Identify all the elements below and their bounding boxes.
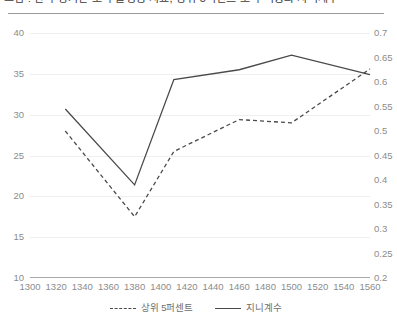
legend-item[interactable]: 상위 5퍼센트	[110, 302, 194, 314]
legend-item-label: 상위 5퍼센트	[141, 302, 194, 314]
chart-legend: 상위 5퍼센트지니계수	[0, 300, 392, 316]
y-axis-right-tick: 0.6	[374, 77, 387, 87]
plot-area	[30, 33, 370, 278]
y-axis-left-tick: 25	[13, 151, 24, 161]
y-axis-left-tick: 20	[13, 191, 24, 201]
header-divider	[8, 13, 384, 14]
y-axis-left-tick: 40	[13, 28, 24, 38]
x-axis-tick: 1520	[307, 281, 328, 293]
x-axis-tick: 1480	[255, 281, 276, 293]
x-axis-tick: 1400	[150, 281, 171, 293]
y-axis-left-tick: 15	[13, 232, 24, 242]
x-axis-tick: 1440	[202, 281, 223, 293]
x-axis-tick: 1300	[19, 281, 40, 293]
y-axis-right-tick: 0.35	[374, 200, 393, 210]
solid-line-icon	[215, 308, 241, 309]
x-axis-tick: 1340	[72, 281, 93, 293]
y-axis-right-tick: 0.65	[374, 53, 393, 63]
y-axis-right-tick: 0.5	[374, 126, 387, 136]
x-axis-tick: 1420	[176, 281, 197, 293]
y-axis-right-tick: 0.3	[374, 224, 387, 234]
x-axis-tick: 1380	[124, 281, 145, 293]
y-axis-right-tick: 0.25	[374, 249, 393, 259]
y-axis-left-tick: 30	[13, 110, 24, 120]
y-axis-right-tick: 0.7	[374, 28, 387, 38]
x-axis-tick: 1540	[333, 281, 354, 293]
chart-title: 그림 : 한국 장기간 소득 불평등 지표, 상위 5퍼센트 소득 비중과 지니…	[4, 0, 388, 5]
series-line-dashed	[65, 69, 370, 217]
legend-item[interactable]: 지니계수	[215, 302, 282, 314]
y-axis-right-labels: 0.20.250.30.350.40.450.50.550.60.650.7	[374, 33, 397, 278]
x-axis-tick: 1500	[281, 281, 302, 293]
x-axis-tick: 1560	[359, 281, 380, 293]
y-axis-right-tick: 0.45	[374, 151, 393, 161]
legend-item-label: 지니계수	[246, 302, 282, 314]
y-axis-left-labels: 10152025303540	[0, 33, 24, 278]
y-axis-right-tick: 0.55	[374, 102, 393, 112]
y-axis-right-tick: 0.4	[374, 175, 387, 185]
x-axis-labels: 1300132013401360138014001420144014601480…	[30, 281, 370, 295]
x-axis-tick: 1320	[46, 281, 67, 293]
x-axis-tick: 1360	[98, 281, 119, 293]
x-axis-tick: 1460	[229, 281, 250, 293]
y-axis-left-tick: 35	[13, 69, 24, 79]
series-line-solid	[65, 55, 370, 185]
series-lines	[30, 33, 370, 278]
dashed-line-icon	[110, 308, 136, 309]
